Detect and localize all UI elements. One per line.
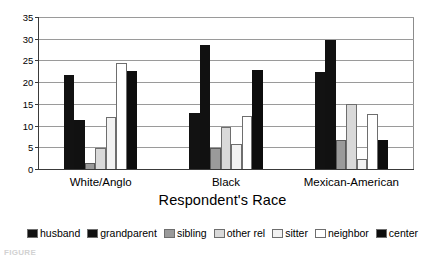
- y-tick-label: 5: [28, 142, 33, 153]
- y-tick-label: 15: [23, 98, 33, 109]
- legend-label: center: [389, 228, 418, 239]
- legend-label: sibling: [177, 228, 207, 239]
- y-tick-label: 10: [23, 120, 33, 131]
- bar-sitter-black: [231, 144, 242, 170]
- legend-swatch-icon: [164, 229, 175, 238]
- gridline: [38, 39, 414, 40]
- legend-item-neighbor[interactable]: neighbor: [315, 228, 369, 239]
- gridline: [38, 17, 414, 18]
- bar-neighbor-black: [242, 116, 253, 170]
- legend-swatch-icon: [87, 229, 98, 238]
- legend-swatch-icon: [27, 229, 38, 238]
- figure-container: 05101520253035 White/AngloBlackMexican-A…: [0, 0, 445, 256]
- legend-item-sitter[interactable]: sitter: [272, 228, 308, 239]
- bar-husband-mexican-american: [315, 72, 326, 170]
- bar-sibling-mexican-american: [336, 140, 347, 170]
- gridline: [38, 82, 414, 83]
- gridline: [38, 60, 414, 61]
- bar-neighbor-mexican-american: [367, 114, 378, 170]
- y-tick-label: 35: [23, 12, 33, 23]
- plot-area: [38, 17, 414, 170]
- legend-label: sitter: [285, 228, 308, 239]
- legend-swatch-icon: [214, 229, 225, 238]
- bar-other-rel-white-anglo: [95, 148, 106, 170]
- x-category-label: Mexican-American: [304, 176, 399, 188]
- figure-caption: FIGURE: [4, 248, 36, 256]
- legend-item-grandparent[interactable]: grandparent: [87, 228, 157, 239]
- y-tick-label: 25: [23, 55, 33, 66]
- chart-legend: husbandgrandparentsiblingother relsitter…: [0, 228, 445, 239]
- bar-center-mexican-american: [378, 140, 389, 170]
- x-category-label: Black: [212, 176, 240, 188]
- gridline: [38, 104, 414, 105]
- legend-swatch-icon: [272, 229, 283, 238]
- x-axis-title: Respondent's Race: [0, 192, 445, 208]
- bar-grandparent-white-anglo: [74, 120, 85, 170]
- y-axis-line: [38, 17, 39, 170]
- legend-label: other rel: [227, 228, 266, 239]
- legend-item-sibling[interactable]: sibling: [164, 228, 207, 239]
- x-category-label: White/Anglo: [70, 176, 132, 188]
- bar-husband-white-anglo: [64, 75, 75, 170]
- legend-label: grandparent: [100, 228, 157, 239]
- x-axis-line: [38, 169, 414, 170]
- y-tick-label: 20: [23, 77, 33, 88]
- y-tick-label: 30: [23, 33, 33, 44]
- legend-item-center[interactable]: center: [376, 228, 418, 239]
- bar-center-white-anglo: [127, 71, 138, 170]
- legend-item-other-rel[interactable]: other rel: [214, 228, 266, 239]
- bar-sitter-white-anglo: [106, 117, 117, 170]
- bar-center-black: [252, 70, 263, 170]
- legend-label: husband: [40, 228, 80, 239]
- bar-other-rel-mexican-american: [346, 104, 357, 170]
- bar-husband-black: [189, 113, 200, 170]
- legend-swatch-icon: [315, 229, 326, 238]
- bar-grandparent-black: [200, 45, 211, 170]
- y-tick-label: 0: [28, 164, 33, 175]
- bar-neighbor-white-anglo: [116, 63, 127, 170]
- legend-label: neighbor: [328, 228, 369, 239]
- y-axis: 05101520253035: [0, 0, 38, 256]
- bar-grandparent-mexican-american: [325, 40, 336, 170]
- legend-swatch-icon: [376, 229, 387, 238]
- bar-sibling-black: [210, 148, 221, 170]
- bar-other-rel-black: [221, 127, 232, 170]
- legend-item-husband[interactable]: husband: [27, 228, 80, 239]
